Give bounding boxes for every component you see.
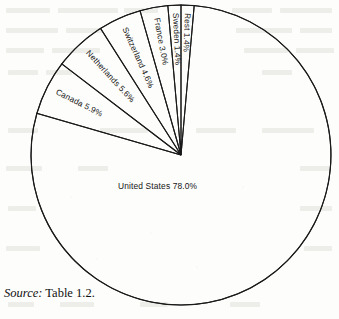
slice-label-rest: Rest 1.4% (181, 12, 191, 51)
pie-chart-svg (0, 0, 339, 319)
slice-label-united-states: United States 78.0% (118, 182, 197, 190)
source-caption: Source: Table 1.2. (4, 286, 95, 301)
source-reference: Table 1.2. (45, 286, 94, 300)
slice-label-sweden: Sweden 1.4% (171, 12, 181, 64)
scanned-page: Canada 5.9% Netherlands 5.6% Switzerland… (0, 0, 339, 319)
pie-chart: Canada 5.9% Netherlands 5.6% Switzerland… (0, 0, 339, 319)
source-label: Source: (4, 286, 42, 300)
